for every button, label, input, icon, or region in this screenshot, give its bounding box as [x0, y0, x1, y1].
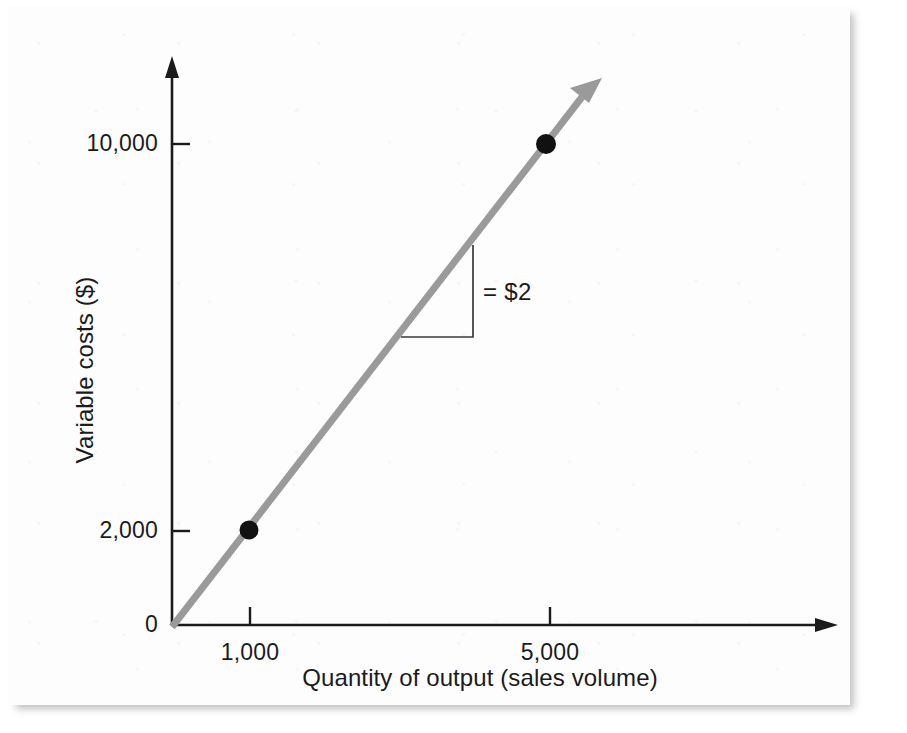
chart-canvas	[0, 0, 907, 733]
slope-triangle	[401, 245, 473, 337]
y-axis	[165, 56, 179, 625]
figure-page: 10,000 2,000 0 1,000 5,000 Quantity of o…	[0, 0, 907, 733]
cost-line-arrowhead	[570, 78, 602, 103]
x-axis-arrowhead	[815, 618, 838, 632]
data-point-1000-2000	[240, 521, 259, 540]
y-axis-arrowhead	[165, 56, 179, 78]
x-tick-label-5000: 5,000	[521, 641, 580, 664]
y-tick-label-2000: 2,000	[99, 519, 158, 542]
data-point-5000-10000	[536, 134, 556, 154]
x-axis	[172, 618, 838, 632]
x-axis-ticks	[250, 607, 550, 625]
variable-cost-line	[172, 78, 602, 627]
y-tick-label-10000: 10,000	[86, 132, 158, 155]
x-axis-title: Quantity of output (sales volume)	[302, 666, 657, 690]
y-axis-ticks	[172, 144, 190, 531]
x-tick-label-1000: 1,000	[221, 641, 280, 664]
y-tick-label-0: 0	[145, 613, 158, 636]
y-axis-title: Variable costs ($)	[73, 277, 97, 464]
slope-annotation-label: = $2	[483, 280, 532, 304]
